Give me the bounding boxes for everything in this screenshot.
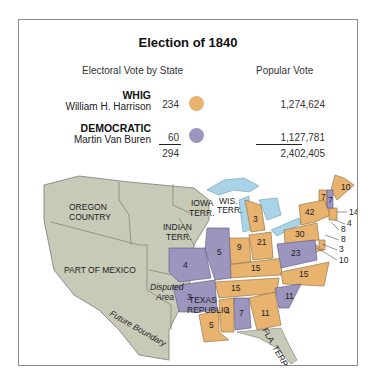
svg-text:TERR.: TERR. [166, 232, 192, 242]
svg-text:INDIAN: INDIAN [163, 222, 192, 232]
svg-text:3: 3 [339, 244, 344, 254]
electoral-votes-democratic: 60 [157, 132, 179, 143]
legend-whig: WHIG William H. Harrison [65, 90, 151, 112]
candidate-democratic: Martin Van Buren [74, 134, 151, 145]
svg-text:PART OF MEXICO: PART OF MEXICO [64, 265, 136, 275]
svg-text:30: 30 [295, 229, 305, 239]
party-name-whig: WHIG [122, 89, 151, 101]
svg-text:5: 5 [217, 247, 222, 257]
us-map-1840: 10 7 7 14 42 4 8 30 8 3 10 3 21 9 5 4 23… [19, 160, 358, 366]
svg-text:4: 4 [347, 218, 352, 228]
state-massachusetts [329, 208, 337, 220]
svg-text:TERR.: TERR. [217, 205, 243, 215]
svg-text:10: 10 [339, 255, 349, 265]
popular-vote-header: Popular Vote [256, 65, 313, 76]
svg-text:Disputed: Disputed [150, 282, 184, 292]
svg-text:COUNTRY: COUNTRY [69, 212, 111, 222]
svg-text:TERR.: TERR. [189, 208, 215, 218]
electoral-votes-total: 294 [157, 148, 179, 159]
svg-text:7: 7 [321, 192, 326, 202]
legend-democratic: DEMOCRATIC Martin Van Buren [74, 123, 151, 145]
svg-text:5: 5 [209, 320, 214, 330]
election-map-figure: Election of 1840 Electoral Vote by State… [18, 19, 358, 366]
svg-text:4: 4 [183, 260, 188, 270]
svg-text:REPUBLIC: REPUBLIC [187, 305, 230, 315]
svg-text:15: 15 [299, 269, 309, 279]
svg-text:9: 9 [237, 242, 242, 252]
svg-text:15: 15 [251, 263, 261, 273]
svg-text:11: 11 [261, 308, 270, 318]
svg-text:8: 8 [341, 224, 346, 234]
svg-text:TEXAS: TEXAS [189, 295, 217, 305]
whig-color-swatch-icon [189, 96, 204, 111]
popular-votes-total: 2,402,405 [255, 148, 325, 159]
svg-text:3: 3 [253, 214, 258, 224]
figure-title: Election of 1840 [19, 35, 357, 50]
svg-text:21: 21 [257, 237, 267, 247]
candidate-whig: William H. Harrison [65, 101, 151, 112]
svg-text:10: 10 [341, 182, 351, 192]
svg-text:OREGON: OREGON [69, 202, 107, 212]
democratic-color-swatch-icon [189, 128, 204, 143]
popular-total-rule [256, 144, 302, 145]
svg-text:8: 8 [341, 234, 346, 244]
svg-text:11: 11 [285, 291, 294, 301]
svg-text:7: 7 [328, 195, 333, 205]
electoral-votes-whig: 234 [157, 99, 179, 110]
popular-votes-democratic: 1,127,781 [255, 132, 325, 143]
electoral-vote-header: Electoral Vote by State [82, 65, 183, 76]
svg-text:15: 15 [231, 283, 241, 293]
svg-text:23: 23 [291, 248, 301, 258]
svg-text:7: 7 [239, 308, 244, 318]
party-name-democratic: DEMOCRATIC [81, 122, 151, 134]
svg-text:Area: Area [155, 292, 174, 302]
electoral-total-rule [159, 144, 181, 145]
popular-votes-whig: 1,274,624 [255, 99, 325, 110]
state-missouri [169, 248, 211, 282]
svg-text:14: 14 [349, 207, 358, 217]
svg-text:IOWA: IOWA [191, 198, 214, 208]
svg-text:42: 42 [305, 207, 315, 217]
lake-superior [207, 178, 259, 195]
